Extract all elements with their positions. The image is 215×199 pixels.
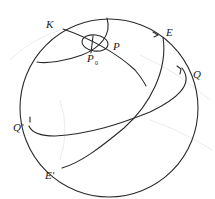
label-p0-subscript: 0	[95, 60, 98, 66]
arrow-q-icon	[177, 66, 181, 74]
label-q-prime: Q'	[13, 121, 24, 133]
label-p: P	[112, 40, 120, 52]
label-k: K	[45, 18, 54, 30]
celestial-sphere-diagram: K P P 0 E Q Q' E'	[0, 0, 215, 199]
label-p0: P	[86, 52, 94, 64]
label-e: E	[165, 26, 173, 38]
label-e-prime: E'	[44, 169, 55, 181]
great-circle-q-qprime	[29, 68, 186, 136]
label-q: Q	[193, 68, 201, 80]
faint-background-lines	[10, 30, 212, 160]
